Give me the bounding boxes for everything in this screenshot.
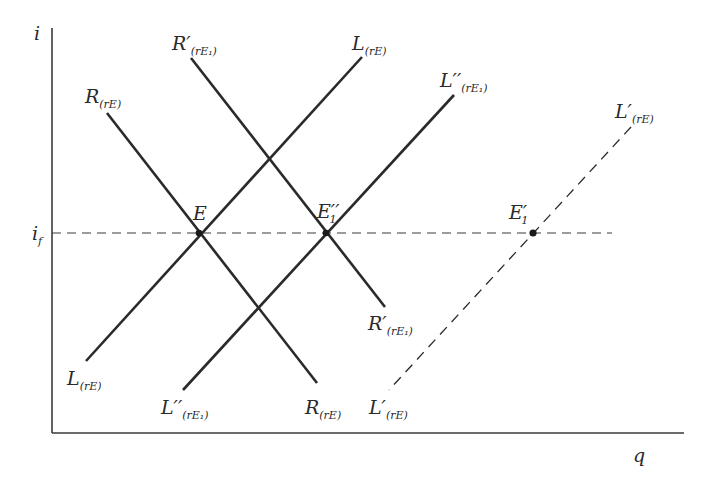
point-E — [196, 230, 203, 237]
label-L2-top-main: L′′ — [439, 69, 462, 91]
label-E1pp-sub: 1 — [330, 213, 337, 226]
label-R-top: R(rE) — [84, 85, 121, 111]
label-R-prime-top-main: R′ — [171, 32, 191, 54]
x-axis-label: q — [633, 444, 645, 466]
label-L-top: L(rE) — [351, 32, 387, 58]
label-L1-top-main: L′ — [614, 100, 633, 122]
is-lm-diagram: i q if E E′′1 E′1 R(rE) R(rE) R′(rE₁) R′… — [0, 0, 705, 486]
label-R-prime-bottom: R′(rE₁) — [367, 312, 413, 338]
label-L-bottom: L(rE) — [66, 367, 102, 393]
label-L1-top-sub: (rE) — [632, 113, 654, 126]
label-R-top-sub: (rE) — [99, 98, 121, 111]
label-L1-bottom-main: L′ — [368, 396, 387, 418]
label-L-double-prime-top: L′′(rE₁) — [439, 69, 488, 95]
label-E1-prime: E′1 — [508, 201, 528, 227]
label-L-double-prime-bottom: L′′(rE₁) — [160, 396, 209, 422]
label-R-bottom-sub: (rE) — [319, 409, 341, 422]
curve-L-prime-dashed — [389, 127, 631, 390]
curve-R-prime — [191, 58, 385, 307]
label-L1-bottom-sub: (rE) — [386, 409, 408, 422]
label-R-bottom-main: R — [304, 396, 319, 418]
label-L2-top-sub: (rE₁) — [461, 82, 487, 95]
label-R-bottom: R(rE) — [304, 396, 341, 422]
label-E: E — [192, 202, 207, 224]
label-R-prime-top-sub: (rE₁) — [191, 45, 217, 58]
label-L-top-sub: (rE) — [365, 45, 387, 58]
if-label-sub: f — [37, 235, 44, 248]
point-E1-double-prime — [323, 230, 330, 237]
label-E1pp-main: E′′ — [316, 200, 340, 222]
if-label: if — [32, 222, 44, 248]
label-R-prime-top: R′(rE₁) — [171, 32, 217, 58]
label-R-top-main: R — [84, 85, 99, 107]
curve-L-double-prime — [183, 95, 454, 390]
label-L2-bottom-main: L′′ — [160, 396, 183, 418]
label-L-bottom-main: L — [66, 367, 80, 389]
point-E1-prime — [529, 229, 536, 236]
label-L-top-main: L — [351, 32, 365, 54]
label-R-prime-bottom-sub: (rE₁) — [387, 325, 413, 338]
y-axis-label: i — [34, 22, 40, 44]
label-L-bottom-sub: (rE) — [80, 380, 102, 393]
curve-R — [107, 113, 317, 383]
label-L-prime-bottom: L′(rE) — [368, 396, 408, 422]
label-R-prime-bottom-main: R′ — [367, 312, 387, 334]
label-L2-bottom-sub: (rE₁) — [182, 409, 208, 422]
label-L-prime-top: L′(rE) — [614, 100, 654, 126]
label-E1p-sub: 1 — [521, 214, 528, 227]
